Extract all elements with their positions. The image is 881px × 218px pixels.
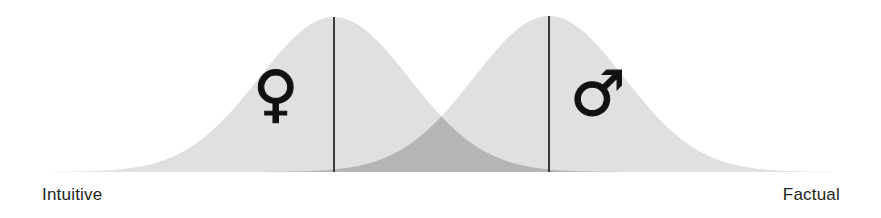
intuitive-factual-distribution-figure: ♀ ♂ Intuitive Factual — [0, 0, 881, 218]
axis-label-left: Intuitive — [42, 186, 102, 203]
female-symbol-icon: ♀ — [253, 63, 298, 125]
axis-label-right: Factual — [783, 186, 840, 203]
distribution-plot — [0, 0, 881, 218]
male-symbol-icon: ♂ — [570, 63, 626, 125]
